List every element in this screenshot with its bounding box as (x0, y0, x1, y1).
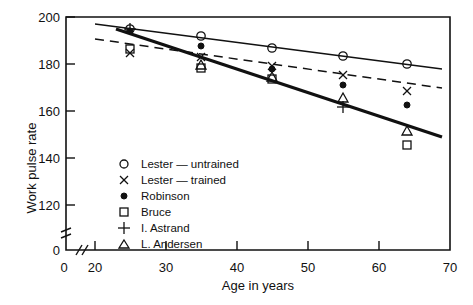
legend-marker-plus (118, 222, 130, 234)
x-tick-label-50: 50 (301, 260, 315, 275)
legend-marker-open-circle (120, 160, 128, 168)
data-point (403, 87, 411, 95)
x-tick-label-20: 20 (88, 260, 102, 275)
legend-label-lester-untrained: Lester — untrained (141, 158, 239, 170)
y-axis-title: Work pulse rate (24, 123, 39, 214)
work-pulse-rate-chart: Work pulse rate Age in years 200 180 160… (0, 0, 473, 305)
y-tick-label-120: 120 (38, 198, 60, 213)
series-bruce (126, 45, 411, 149)
y-tick-label-200: 200 (38, 10, 60, 25)
data-point (340, 82, 346, 88)
x-tick-label-70: 70 (443, 260, 457, 275)
x-axis-title: Age in years (222, 278, 295, 293)
legend-marker-open-triangle (119, 240, 129, 248)
data-point (403, 141, 411, 149)
legend: Lester — untrained Lester — trained Robi… (118, 158, 239, 250)
series-robinson (127, 28, 410, 108)
legend-label-l-andersen: L. Andersen (141, 238, 202, 250)
series-l-andersen (196, 60, 412, 135)
data-point (198, 43, 204, 49)
series-lester-trained (126, 49, 411, 95)
y-tick-label-0: 0 (53, 243, 60, 258)
y-tick-label-140: 140 (38, 151, 60, 166)
x-tick-label-0: 0 (60, 260, 67, 275)
legend-label-bruce: Bruce (141, 206, 171, 218)
data-point (338, 93, 348, 102)
trendline-decline (116, 29, 442, 137)
legend-marker-filled-circle (121, 193, 127, 199)
legend-marker-open-square (120, 208, 128, 216)
chart-figure: Work pulse rate Age in years 200 180 160… (0, 0, 473, 305)
y-tick-label-160: 160 (38, 104, 60, 119)
data-point (197, 32, 205, 40)
y-tick-label-180: 180 (38, 57, 60, 72)
plot-frame (66, 17, 450, 250)
legend-label-i-astrand: I. Astrand (141, 222, 190, 234)
x-tick-label-40: 40 (230, 260, 244, 275)
legend-label-robinson: Robinson (141, 190, 190, 202)
legend-marker-cross (120, 176, 128, 184)
x-tick-label-30: 30 (159, 260, 173, 275)
data-point (404, 102, 410, 108)
data-point (126, 45, 134, 53)
x-tick-label-60: 60 (372, 260, 386, 275)
legend-label-lester-trained: Lester — trained (141, 174, 226, 186)
data-point (339, 71, 347, 79)
data-point (268, 44, 276, 52)
